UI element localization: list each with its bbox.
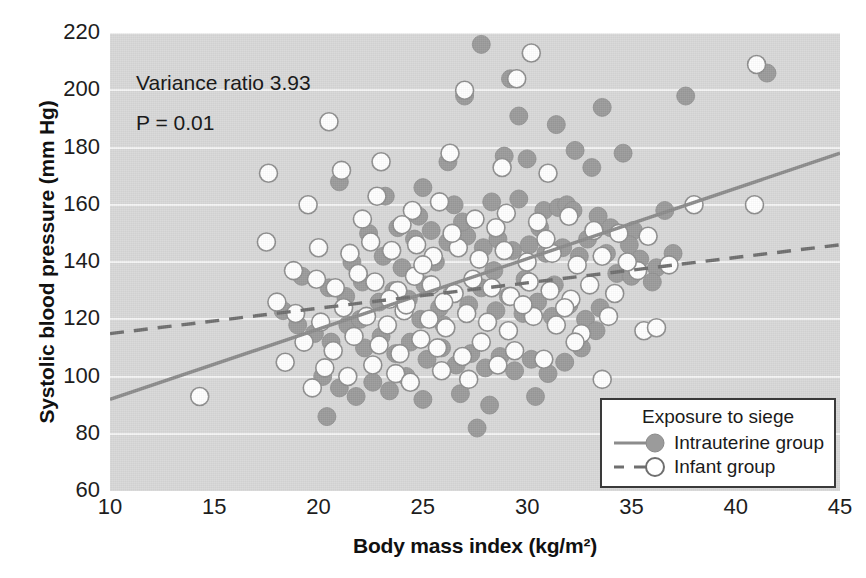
data-point — [529, 213, 547, 231]
data-point — [479, 313, 497, 331]
data-point — [510, 107, 528, 125]
y-axis-tick-label: 140 — [40, 250, 100, 272]
data-point — [510, 190, 528, 208]
data-point — [401, 373, 419, 391]
data-point — [593, 370, 611, 388]
chart-figure: Systolic blood pressure (mm Hg) 60801001… — [0, 0, 866, 578]
data-point — [299, 196, 317, 214]
data-point — [422, 222, 440, 240]
data-point — [458, 305, 476, 323]
data-point — [547, 316, 565, 334]
data-point — [499, 322, 517, 340]
data-point — [335, 299, 353, 317]
data-point — [285, 262, 303, 280]
x-axis-tick-label: 35 — [596, 496, 666, 518]
data-point — [318, 408, 336, 426]
data-point — [470, 250, 488, 268]
data-point — [522, 44, 540, 62]
data-point — [320, 113, 338, 131]
x-axis-tick-label: 45 — [805, 496, 866, 518]
data-point — [537, 230, 555, 248]
data-point — [364, 356, 382, 374]
data-point — [520, 236, 538, 254]
data-point — [431, 193, 449, 211]
data-point — [364, 373, 382, 391]
data-point — [489, 356, 507, 374]
data-point — [614, 144, 632, 162]
trendline-intrauterine-group — [110, 153, 840, 399]
data-point — [414, 179, 432, 197]
data-point — [381, 382, 399, 400]
data-point — [566, 333, 584, 351]
data-point — [506, 342, 524, 360]
data-point — [429, 339, 447, 357]
data-point — [391, 345, 409, 363]
data-point — [257, 233, 275, 251]
legend-title: Exposure to siege — [602, 405, 834, 431]
y-axis-tick-labels: 6080100120140160180200220 — [32, 0, 100, 578]
data-point — [593, 98, 611, 116]
data-point — [326, 279, 344, 297]
data-point — [383, 242, 401, 260]
data-point — [518, 150, 536, 168]
data-point — [393, 216, 411, 234]
data-point — [583, 159, 601, 177]
x-axis-tick-label: 25 — [388, 496, 458, 518]
data-point — [541, 282, 559, 300]
x-axis-title: Body mass index (kg/m²) — [110, 534, 840, 558]
data-point — [408, 236, 426, 254]
legend-item-intrauterine-group[interactable]: Intrauterine group — [602, 431, 834, 455]
data-point — [539, 164, 557, 182]
data-point — [495, 242, 513, 260]
annotation-p-value: P = 0.01 — [136, 111, 214, 135]
legend: Exposure to siege Intrauterine group — [600, 398, 836, 488]
data-point — [493, 159, 511, 177]
data-point — [468, 419, 486, 437]
data-point — [353, 210, 371, 228]
data-point — [433, 362, 451, 380]
y-axis-tick-label: 120 — [40, 307, 100, 329]
plot-area: Variance ratio 3.93 P = 0.01 Exposure to… — [110, 33, 840, 491]
data-point — [308, 270, 326, 288]
data-point — [345, 327, 363, 345]
x-axis-tick-label: 15 — [179, 496, 249, 518]
data-point — [456, 81, 474, 99]
data-point — [514, 296, 532, 314]
data-point — [481, 396, 499, 414]
y-axis-tick-label: 80 — [40, 422, 100, 444]
data-point — [347, 388, 365, 406]
data-point — [303, 379, 321, 397]
legend-key-filled-circle-icon — [612, 432, 674, 454]
data-point — [260, 164, 278, 182]
legend-item-infant-group[interactable]: Infant group — [602, 455, 834, 479]
data-point — [441, 144, 459, 162]
data-point — [600, 307, 618, 325]
data-point — [556, 299, 574, 317]
data-point — [748, 56, 766, 74]
data-point — [677, 87, 695, 105]
y-axis-tick-label: 100 — [40, 365, 100, 387]
data-point — [535, 350, 553, 368]
data-point — [487, 219, 505, 237]
data-point — [414, 256, 432, 274]
data-point — [276, 353, 294, 371]
data-point — [437, 319, 455, 337]
data-point — [472, 35, 490, 53]
y-axis-tick-label: 220 — [40, 21, 100, 43]
data-point — [191, 388, 209, 406]
data-point — [568, 256, 586, 274]
data-point — [566, 141, 584, 159]
data-point — [454, 348, 472, 366]
x-axis-tick-label: 20 — [284, 496, 354, 518]
data-point — [508, 70, 526, 88]
y-axis-tick-label: 200 — [40, 78, 100, 100]
data-point — [420, 310, 438, 328]
x-axis-tick-label: 40 — [701, 496, 771, 518]
y-axis-tick-label: 160 — [40, 193, 100, 215]
x-axis-tick-label: 10 — [75, 496, 145, 518]
data-point — [310, 239, 328, 257]
data-point — [368, 187, 386, 205]
legend-label-intrauterine-group: Intrauterine group — [674, 433, 824, 453]
data-point — [339, 368, 357, 386]
data-point — [268, 293, 286, 311]
